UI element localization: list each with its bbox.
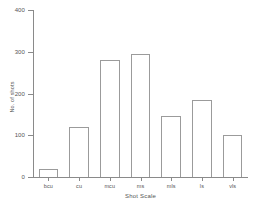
bar-mls [161, 116, 181, 177]
y-tick-mark-100 [28, 135, 33, 136]
y-tick-mark-300 [28, 52, 33, 53]
x-tick-mark-mls [171, 177, 172, 181]
y-tick-label-0-wrap: 0 [0, 174, 25, 180]
y-tick-mark-400 [28, 10, 33, 11]
bar-ls [192, 100, 212, 177]
x-tick-mark-mcu [110, 177, 111, 181]
bar-cu [69, 127, 89, 177]
x-tick-label-mls: mls [167, 183, 176, 189]
y-tick-mark-200 [28, 94, 33, 95]
x-tick-label-ms: ms [137, 183, 145, 189]
x-tick-label-vls: vls [229, 183, 236, 189]
x-tick-label-cu: cu [76, 183, 82, 189]
x-axis-title: Shot Scale [33, 193, 248, 200]
bar-bcu [39, 169, 59, 177]
bar-ms [131, 54, 151, 177]
y-tick-label-0: 0 [0, 174, 25, 180]
y-tick-mark-0 [28, 177, 33, 178]
y-axis-title: No. of shots [9, 67, 15, 127]
x-tick-label-bcu: bcu [44, 183, 53, 189]
x-tick-mark-cu [79, 177, 80, 181]
x-tick-label-ls: ls [200, 183, 204, 189]
y-tick-label-400: 400 [0, 7, 25, 13]
y-tick-label-100-wrap: 100 [0, 132, 25, 138]
y-tick-label-100: 100 [0, 132, 25, 138]
bar-chart: 0 100 200 300 400 bcucumcumsmlslsvls No.… [0, 0, 256, 208]
y-tick-label-300-wrap: 300 [0, 49, 25, 55]
bar-vls [223, 135, 243, 177]
x-tick-mark-ls [202, 177, 203, 181]
x-tick-mark-ms [141, 177, 142, 181]
y-tick-label-400-wrap: 400 [0, 7, 25, 13]
x-tick-label-mcu: mcu [104, 183, 115, 189]
x-tick-mark-bcu [48, 177, 49, 181]
x-tick-mark-vls [233, 177, 234, 181]
y-tick-label-300: 300 [0, 49, 25, 55]
y-axis-line [33, 10, 34, 178]
bar-mcu [100, 60, 120, 177]
